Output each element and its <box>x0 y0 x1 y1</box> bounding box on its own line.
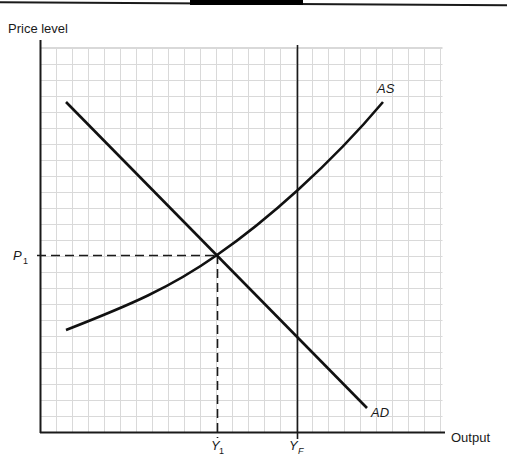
p1-label-main: P <box>13 248 22 263</box>
as-curve-label: AS <box>376 81 395 96</box>
yf-tick-label: Y F <box>289 438 304 456</box>
yf-label-sub: F <box>298 446 304 456</box>
top-border <box>0 0 507 6</box>
x-axis-label: Output <box>451 430 490 445</box>
as-curve <box>66 102 383 330</box>
chart-canvas: Price level Output AS AD P 1 Y 1 Y F <box>0 0 507 468</box>
ad-curve-label: AD <box>370 405 389 420</box>
p1-tick-label: P 1 <box>13 248 28 266</box>
p1-label-sub: 1 <box>23 256 28 266</box>
y1-tick-label: Y 1 <box>211 438 224 456</box>
y1-label-sub: 1 <box>219 446 224 456</box>
y-axis-label: Price level <box>8 21 68 36</box>
